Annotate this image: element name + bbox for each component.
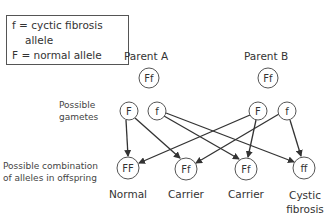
offspring-Ff-2-label: Ff — [241, 164, 251, 175]
offspring-Ff-2: Ff — [235, 158, 257, 180]
phenotype-cystic-fibrosis: Cystic fibrosis — [280, 188, 330, 216]
offspring-FF-label: FF — [122, 163, 134, 174]
gamete-a-f-label: f — [155, 106, 159, 117]
phenotype-normal: Normal — [103, 188, 153, 200]
gamete-a-F: F — [120, 102, 138, 120]
gamete-a-F-label: F — [126, 106, 132, 117]
gamete-b-F-label: F — [255, 106, 261, 117]
offspring-FF: FF — [117, 157, 139, 179]
parent-a-genotype: Ff — [144, 73, 154, 84]
phenotype-carrier-2: Carrier — [221, 188, 271, 200]
connection-a-F-to-Ff1 — [135, 118, 180, 158]
parent-a-node: Ff — [139, 68, 159, 88]
connection-a-F-to-FF — [126, 120, 128, 156]
connection-b-f-to-Ff1 — [196, 114, 279, 163]
connection-b-F-to-Ff2 — [248, 120, 256, 157]
gamete-b-f-label: f — [285, 106, 289, 117]
phenotype-cf-line1: Cystic — [280, 188, 330, 202]
punnett-diagram: Ff Ff F f F f FF Ff Ff ff — [0, 0, 331, 220]
gamete-a-f: f — [148, 102, 166, 120]
phenotype-carrier-1: Carrier — [161, 188, 211, 200]
gamete-b-F: F — [249, 102, 267, 120]
parent-b-genotype: Ff — [263, 73, 273, 84]
offspring-ff-label: ff — [301, 163, 309, 174]
phenotype-cf-line2: fibrosis — [280, 202, 330, 216]
connection-a-f-to-ff — [166, 113, 294, 162]
offspring-Ff-1: Ff — [175, 158, 197, 180]
gamete-b-f: f — [278, 102, 296, 120]
offspring-ff: ff — [293, 157, 315, 179]
parent-b-node: Ff — [258, 68, 278, 88]
connection-a-f-to-Ff2 — [164, 116, 239, 159]
offspring-Ff-1-label: Ff — [181, 164, 191, 175]
connection-b-f-to-ff — [290, 120, 301, 156]
